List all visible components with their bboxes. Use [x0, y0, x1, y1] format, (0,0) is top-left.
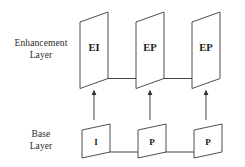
base-frame-1-label: I [94, 137, 98, 147]
enhancement-frame-3: EP [192, 12, 220, 89]
diagram-canvas: Enhancement Layer Base Layer [0, 0, 245, 167]
vertical-arrow-1 [92, 90, 97, 121]
diagram-graphics: EI EP EP I P P [0, 0, 245, 167]
enhancement-frame-1: EI [80, 12, 108, 89]
vertical-arrow-3 [204, 90, 209, 121]
enhancement-frame-3-label: EP [199, 42, 213, 53]
enhancement-frame-2: EP [136, 12, 164, 89]
enhancement-frame-2-label: EP [143, 42, 157, 53]
base-frame-2: P [138, 124, 166, 158]
base-frame-3-label: P [205, 137, 211, 147]
enhancement-frame-1-label: EI [88, 42, 99, 53]
base-frame-2-label: P [149, 137, 155, 147]
base-frame-3: P [194, 124, 222, 158]
vertical-arrow-2 [148, 90, 153, 121]
base-frame-1: I [82, 124, 110, 158]
